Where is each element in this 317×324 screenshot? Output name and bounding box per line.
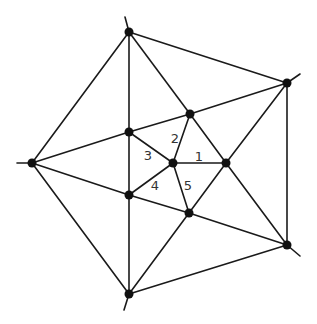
node-UR <box>186 110 195 119</box>
edge-UR-UL <box>129 114 190 132</box>
edge-extensions <box>17 17 300 310</box>
edge-BR-LR <box>189 213 287 245</box>
edge-T-TR <box>129 32 287 83</box>
node-R <box>222 159 231 168</box>
node-C <box>169 159 178 168</box>
node-LL <box>125 191 134 200</box>
edge-TR-R <box>226 83 287 163</box>
label-4: 4 <box>151 178 159 193</box>
graph-edges <box>32 32 287 294</box>
edge-T-UR <box>129 32 190 114</box>
label-3: 3 <box>144 148 152 163</box>
edge-BR-B <box>129 245 287 294</box>
edge-TR-UR <box>190 83 287 114</box>
node-BR <box>283 241 292 250</box>
node-L <box>28 159 37 168</box>
node-UL <box>125 128 134 137</box>
label-5: 5 <box>184 178 192 193</box>
edge-LL-L <box>32 163 129 195</box>
edge-LR-B <box>129 213 189 294</box>
node-LR <box>185 209 194 218</box>
label-2: 2 <box>171 131 179 146</box>
edge-LR-LL <box>129 195 189 213</box>
label-1: 1 <box>195 149 203 164</box>
node-TR <box>283 79 292 88</box>
edge-UL-L <box>32 132 129 163</box>
edge-R-BR <box>226 163 287 245</box>
graph-diagram: 1 2 3 4 5 <box>0 0 317 324</box>
edge-B-L <box>32 163 129 294</box>
graph-nodes <box>28 28 292 299</box>
edge-L-T <box>32 32 129 163</box>
node-B <box>125 290 134 299</box>
edge-R-LR <box>189 163 226 213</box>
node-T <box>125 28 134 37</box>
